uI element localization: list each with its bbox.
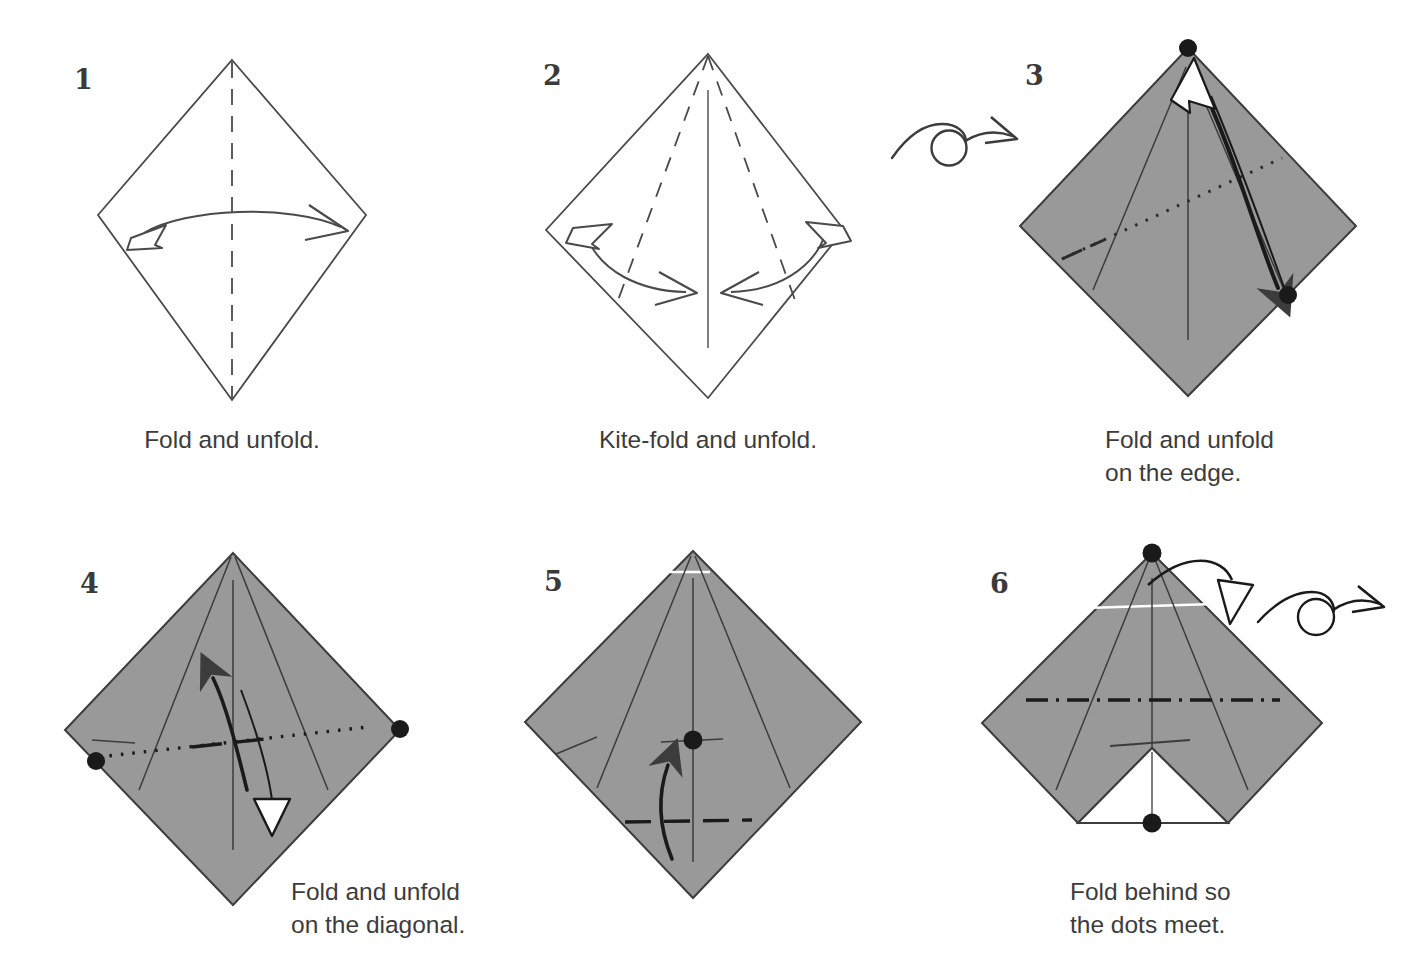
step-4-figure — [65, 553, 409, 905]
reference-dot-top-step6 — [1143, 544, 1162, 563]
step-number-1: 1 — [74, 66, 93, 93]
reference-dot-bottom-step6 — [1143, 814, 1162, 833]
reference-dot-center-step5 — [684, 731, 703, 750]
step-number-3: 3 — [1025, 62, 1044, 89]
step-number-5: 5 — [544, 568, 563, 595]
step-number-2: 2 — [543, 62, 562, 89]
step-2-figure — [546, 54, 851, 398]
step-1-figure — [98, 60, 366, 400]
caption-step-3: Fold and unfold on the edge. — [1105, 424, 1274, 489]
reference-dot-right-edge — [1279, 286, 1297, 304]
turn-over-symbol-1 — [892, 117, 1017, 166]
caption-step-6: Fold behind so the dots meet. — [1070, 876, 1231, 941]
turn-over-arc-2 — [1258, 592, 1334, 622]
turn-over-symbol-2 — [1258, 586, 1384, 635]
reference-dot-right-step4 — [391, 720, 409, 738]
step-3-figure — [1020, 39, 1356, 396]
reference-dot-left-step4 — [87, 752, 105, 770]
origami-diagram-sheet: 1 2 3 4 5 6 Fold and unfold. Kite-fold a… — [0, 0, 1427, 956]
reference-dot-top — [1179, 39, 1197, 57]
turn-over-loop-2 — [1298, 599, 1334, 635]
step-number-4: 4 — [80, 570, 99, 597]
turn-over-arrowhead-2 — [1352, 586, 1384, 612]
turn-over-loop — [932, 131, 967, 166]
turn-over-arc — [892, 124, 966, 158]
step-5-figure — [525, 551, 861, 898]
step-number-6: 6 — [990, 570, 1009, 597]
caption-step-2: Kite-fold and unfold. — [599, 424, 817, 457]
hollow-arrowhead-fold-behind — [1218, 580, 1253, 624]
caption-step-1: Fold and unfold. — [144, 424, 320, 457]
caption-step-4: Fold and unfold on the diagonal. — [291, 876, 465, 941]
step-6-figure — [982, 544, 1322, 833]
turn-over-arrowhead — [985, 117, 1017, 143]
